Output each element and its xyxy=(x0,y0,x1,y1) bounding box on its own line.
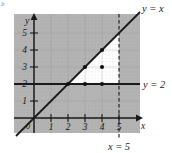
y-tick-label-4: 4 xyxy=(22,45,27,55)
x-tick-label-3: 3 xyxy=(82,122,88,132)
y-tick-label-5: 5 xyxy=(22,28,27,38)
x-tick-label-4: 4 xyxy=(100,122,105,132)
point-4-3 xyxy=(100,65,104,69)
coordinate-plane-graphic: 1 2 3 4 5 1 2 3 4 5 0 x y y = x y = 2 x … xyxy=(0,0,172,153)
x-tick-label-1: 1 xyxy=(49,122,54,132)
y-axis-label: y xyxy=(24,16,30,26)
y-tick-label-3: 3 xyxy=(21,62,27,72)
point-3-2 xyxy=(83,82,87,86)
y-tick-label-2: 2 xyxy=(22,79,27,89)
point-4-4 xyxy=(100,48,104,52)
point-4-2 xyxy=(100,82,104,86)
x-tick-label-2: 2 xyxy=(66,122,71,132)
figure-container: b xyxy=(0,0,172,153)
origin-label: 0 xyxy=(26,122,30,131)
point-3-3 xyxy=(83,65,87,69)
x-axis-label: x xyxy=(140,121,146,131)
point-2-2 xyxy=(66,82,70,86)
label-y-equals-2: y = 2 xyxy=(142,79,166,90)
label-x-equals-5: x = 5 xyxy=(107,141,130,152)
y-tick-label-1: 1 xyxy=(22,96,27,106)
label-y-equals-x: y = x xyxy=(141,3,164,14)
x-tick-label-5: 5 xyxy=(117,122,122,132)
